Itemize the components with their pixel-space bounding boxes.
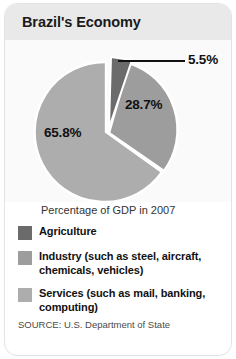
card-header: Brazil's Economy (5, 4, 231, 40)
legend-swatch-agriculture (18, 226, 32, 240)
source-note: SOURCE: U.S. Department of State (18, 319, 170, 330)
pie-chart: 5.5% 28.7% 65.8% (5, 40, 232, 202)
legend-item-industry: Industry (such as steel, aircraft, chemi… (18, 250, 223, 277)
slice-label-services: 65.8% (44, 125, 81, 140)
legend-swatch-services (18, 288, 32, 302)
legend-item-services: Services (such as mail, banking, computi… (18, 287, 223, 314)
legend-caption: Percentage of GDP in 2007 (41, 204, 175, 216)
legend-label-industry: Industry (such as steel, aircraft, chemi… (39, 250, 223, 277)
page-title: Brazil's Economy (22, 14, 141, 30)
legend-item-agriculture: Agriculture (18, 225, 223, 240)
infographic-card: Brazil's Economy 5.5% 28.7% 65.8% Percen… (4, 3, 232, 356)
slice-label-industry: 28.7% (125, 97, 162, 112)
legend-swatch-industry (18, 251, 32, 265)
legend-label-services: Services (such as mail, banking, computi… (39, 287, 223, 314)
slice-label-agriculture: 5.5% (188, 52, 218, 67)
legend-label-agriculture: Agriculture (39, 225, 97, 239)
